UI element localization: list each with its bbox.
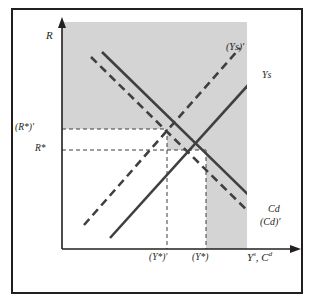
curve-label-cd-shifted: (Cd)' bbox=[260, 217, 280, 227]
curve-label-ys: Ys bbox=[262, 70, 271, 80]
y-axis-label: R bbox=[46, 30, 53, 41]
x-tick-label-y-star: (Y*) bbox=[192, 253, 208, 263]
y-tick-label-r-star-prime: (R*)' bbox=[15, 123, 34, 133]
y-tick-label-r-star: R* bbox=[35, 144, 46, 154]
curve-label-cd: Cd bbox=[268, 204, 280, 214]
figure-container: R Ys, Cd (R*)' R* (Y*)' (Y*) (Ys)' Ys Cd… bbox=[0, 0, 314, 303]
x-axis-label-cd-sup: d bbox=[269, 250, 272, 257]
x-tick-label-y-star-prime: (Y*)' bbox=[149, 253, 167, 263]
curve-label-ys-shifted: (Ys)' bbox=[226, 42, 244, 52]
x-axis-label: Ys, Cd bbox=[247, 252, 272, 263]
x-axis-arrow-icon bbox=[290, 245, 301, 253]
plot-shading bbox=[62, 22, 247, 249]
x-axis-label-cd: C bbox=[261, 251, 268, 263]
